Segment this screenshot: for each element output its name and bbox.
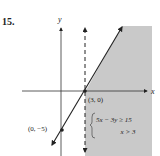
inequality-1: 5x − 3y ≥ 15	[96, 116, 132, 124]
x-axis-label: x	[150, 87, 155, 96]
problem-number: 15.	[2, 16, 15, 27]
inequality-2: x > 3	[120, 128, 136, 136]
point-label-3-0: (3, 0)	[88, 96, 104, 104]
graph-figure: x y 15. (3, 0) (0, −5) 5x − 3y ≥ 15 x > …	[0, 0, 160, 156]
point-3-0	[83, 89, 87, 93]
point-0-neg5	[60, 128, 64, 132]
point-label-0-neg5: (0, −5)	[28, 125, 48, 133]
y-axis-label: y	[57, 15, 62, 24]
